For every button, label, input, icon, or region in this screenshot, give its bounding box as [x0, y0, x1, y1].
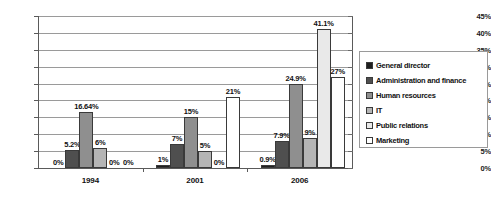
bar-value-label: 27% [330, 67, 344, 76]
legend-swatch-icon [366, 137, 373, 144]
x-axis-line [38, 168, 353, 169]
bar-slot [317, 16, 331, 168]
bar-slot [184, 16, 198, 168]
legend-swatch-icon [366, 92, 373, 99]
legend-item-label: Marketing [376, 136, 409, 145]
bar-value-label: 0% [53, 158, 63, 167]
legend-item-label: Human resources [376, 91, 436, 100]
bar-series-layer: 0%5.2%16.64%6%0%0%1%7%15%5%0%21%0.9%7.9%… [38, 16, 352, 168]
bar [317, 29, 331, 168]
legend-item[interactable]: Public relations [366, 118, 487, 132]
legend-item-label: Public relations [376, 121, 428, 130]
bar-value-label: 5% [200, 141, 210, 150]
bar-slot [212, 16, 226, 168]
bar [331, 77, 345, 168]
legend-item-label: General director [376, 61, 430, 70]
x-axis-group-label: 1994 [82, 176, 99, 185]
legend-swatch-icon [366, 77, 373, 84]
bar [184, 117, 198, 168]
bar [93, 148, 107, 168]
bar-value-label: 7.9% [274, 131, 290, 140]
legend-item[interactable]: Administration and finance [366, 73, 487, 87]
y-axis-tick-label: 40% [457, 28, 491, 37]
legend-item[interactable]: IT [366, 103, 487, 117]
legend-item[interactable]: Marketing [366, 133, 487, 147]
bar-slot [331, 16, 345, 168]
legend-swatch-icon [366, 62, 373, 69]
bar-value-label: 0% [109, 158, 119, 167]
y-axis-tick-label: 0% [457, 164, 491, 173]
bar [79, 112, 93, 168]
legend-item-label: IT [376, 106, 382, 115]
bar-value-label: 21% [226, 87, 240, 96]
legend-swatch-icon [366, 122, 373, 129]
bar-value-label: 5.2% [64, 140, 80, 149]
legend-swatch-icon [366, 107, 373, 114]
bar-slot [121, 16, 135, 168]
bar-slot [156, 16, 170, 168]
bar-slot [261, 16, 275, 168]
x-axis-group-label: 2006 [291, 176, 308, 185]
x-axis-group-separator [143, 168, 144, 172]
y-axis-tick-label: 45% [457, 12, 491, 21]
bar-slot [107, 16, 121, 168]
bar [65, 150, 79, 168]
legend-item[interactable]: General director [366, 58, 487, 72]
legend-item-label: Administration and finance [376, 76, 466, 85]
bar [156, 165, 170, 168]
x-axis-group-separator [247, 168, 248, 172]
bar [303, 138, 317, 168]
bar [226, 97, 240, 168]
bar-slot [170, 16, 184, 168]
right-axis-tick-mark [348, 168, 353, 169]
bar-value-label: 1% [158, 155, 168, 164]
bar-value-label: 0.9% [260, 155, 276, 164]
bar [261, 165, 275, 168]
bar-value-label: 6% [95, 138, 105, 147]
bar [275, 141, 289, 168]
bar [289, 84, 303, 168]
x-axis-group-label: 2001 [186, 176, 203, 185]
bar-value-label: 0% [123, 158, 133, 167]
bar [170, 144, 184, 168]
bar-slot [79, 16, 93, 168]
chart-legend: General directorAdministration and finan… [359, 51, 488, 148]
bar-value-label: 7% [172, 134, 182, 143]
bar-slot [303, 16, 317, 168]
bar [198, 151, 212, 168]
bar-value-label: 9% [304, 128, 314, 137]
right-axis-line [352, 16, 353, 168]
bar-slot [275, 16, 289, 168]
bar-value-label: 0% [214, 158, 224, 167]
bar-chart: 0%5%10%15%20%25%30%35%40%45% 0%5.2%16.64… [0, 0, 491, 199]
bar-slot [289, 16, 303, 168]
bar-value-label: 15% [184, 107, 198, 116]
legend-item[interactable]: Human resources [366, 88, 487, 102]
